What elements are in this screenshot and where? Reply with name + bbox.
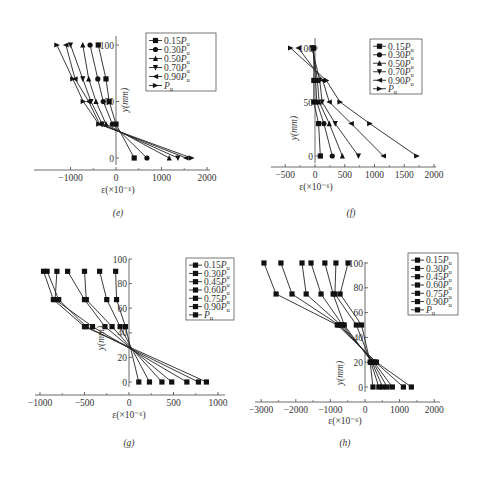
y-axis-label: y(mm) — [289, 116, 300, 141]
legend: 0.15Pu0.30Pu0.45Pu0.60Pu0.75Pu0.90PuPu — [186, 258, 234, 321]
x-tick-label: 1000 — [390, 405, 409, 415]
y-axis-label: y(mm) — [96, 326, 107, 351]
y-tick-label: 80 — [354, 283, 364, 293]
y-tick-label: 20 — [354, 358, 364, 368]
y-tick-label: 100 — [100, 41, 115, 51]
x-tick-label: −2000 — [284, 405, 309, 415]
x-tick-label: −1000 — [318, 405, 343, 415]
x-axis-label: ε(×10⁻⁶) — [112, 410, 146, 421]
x-tick-label: −1000 — [58, 173, 83, 183]
x-tick-label: 2000 — [198, 173, 217, 183]
x-axis-label: ε(×10⁻⁶) — [299, 182, 333, 193]
panel-caption: (f) — [347, 208, 356, 219]
y-tick-label: 20 — [118, 353, 128, 363]
y-axis-label: y(mm) — [335, 361, 346, 386]
x-axis-label: ε(×10⁻⁶) — [101, 185, 135, 196]
y-tick-label: 0 — [122, 378, 127, 388]
y-tick-label: 80 — [118, 279, 128, 289]
x-tick-label: −3000 — [249, 405, 274, 415]
y-tick-label: 100 — [113, 255, 128, 265]
y-tick-label: 0 — [308, 152, 313, 162]
y-tick-label: 0 — [109, 154, 114, 164]
x-tick-label: 2000 — [425, 405, 444, 415]
y-tick-label: 60 — [354, 308, 364, 318]
y-tick-label: 0 — [358, 383, 363, 393]
chart-panel-h: −3000−2000−1000010002000020406080100y(mm… — [249, 253, 458, 449]
chart-panel-g: −1000−50005001000020406080100y(mm)ε(×10⁻… — [28, 255, 234, 450]
x-tick-label: −500 — [75, 398, 95, 408]
x-tick-label: −500 — [275, 170, 295, 180]
x-tick-label: 0 — [127, 398, 132, 408]
panel-caption: (h) — [339, 438, 350, 449]
legend: 0.15Pu0.30Pu0.45Pu0.60Pu0.75Pu0.90PuPu — [408, 253, 458, 316]
x-axis-label: ε(×10⁻⁶) — [328, 416, 362, 427]
x-tick-label: 1500 — [395, 170, 414, 180]
x-tick-label: 2000 — [425, 170, 444, 180]
y-axis-label: y(mm) — [120, 88, 131, 113]
panel-caption: (e) — [113, 208, 124, 219]
x-tick-label: 0 — [313, 170, 318, 180]
x-tick-label: 0 — [363, 405, 368, 415]
chart-panel-f: −5000500100015002000050100y(mm)ε(×10⁻⁶)(… — [271, 38, 444, 219]
y-tick-label: 100 — [349, 259, 364, 269]
x-tick-label: 1000 — [365, 170, 384, 180]
x-tick-label: 1000 — [209, 398, 228, 408]
x-tick-label: −1000 — [28, 398, 53, 408]
data-series — [299, 260, 395, 389]
data-series — [308, 260, 389, 389]
legend: 0.15Pu0.30Pu0.50Pu0.70Pu0.90PuPu — [146, 33, 216, 92]
figure-canvas: −1000010002000050100y(mm)ε(×10⁻⁶)(e)0.15… — [0, 0, 483, 478]
x-tick-label: 1000 — [152, 173, 171, 183]
y-tick-label: 60 — [118, 304, 128, 314]
panel-caption: (g) — [123, 438, 134, 449]
x-tick-label: 0 — [114, 173, 119, 183]
x-tick-label: 500 — [338, 170, 353, 180]
x-tick-label: 500 — [166, 398, 181, 408]
legend: 0.15Pu0.30Pu0.50Pu0.70Pu0.90PuPu — [370, 39, 422, 95]
chart-panel-e: −1000010002000050100y(mm)ε(×10⁻⁶)(e)0.15… — [34, 33, 217, 219]
